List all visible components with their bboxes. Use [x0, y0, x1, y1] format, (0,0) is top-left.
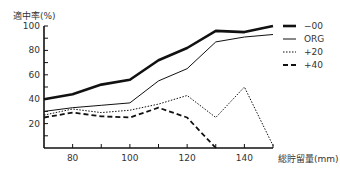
- series-line: [44, 35, 273, 112]
- legend-label: −00: [304, 21, 323, 31]
- y-tick-label: 60: [29, 70, 41, 80]
- legend: −00ORG+20+40: [283, 21, 324, 70]
- x-axis-label: 総貯留量(mm): [278, 153, 339, 164]
- x-tick-label: 140: [236, 153, 253, 163]
- x-axis: 80100120140: [44, 144, 273, 163]
- series-line: [44, 87, 273, 146]
- legend-label: +40: [304, 60, 323, 70]
- series-line: [44, 26, 273, 99]
- series-lines: [44, 26, 273, 148]
- series-line: [44, 108, 216, 148]
- y-axis: 20406080100: [23, 21, 48, 148]
- x-tick-label: 80: [67, 153, 79, 163]
- y-tick-label: 20: [29, 119, 41, 129]
- y-axis-label: 適中率(%): [13, 10, 56, 21]
- legend-label: ORG: [304, 34, 324, 44]
- line-chart: 20406080100 80100120140 −00ORG+20+40 適中率…: [0, 0, 340, 172]
- y-tick-label: 100: [23, 21, 40, 31]
- legend-label: +20: [304, 47, 323, 57]
- x-tick-label: 120: [179, 153, 196, 163]
- y-tick-label: 40: [29, 94, 41, 104]
- y-tick-label: 80: [29, 45, 41, 55]
- x-tick-label: 100: [121, 153, 138, 163]
